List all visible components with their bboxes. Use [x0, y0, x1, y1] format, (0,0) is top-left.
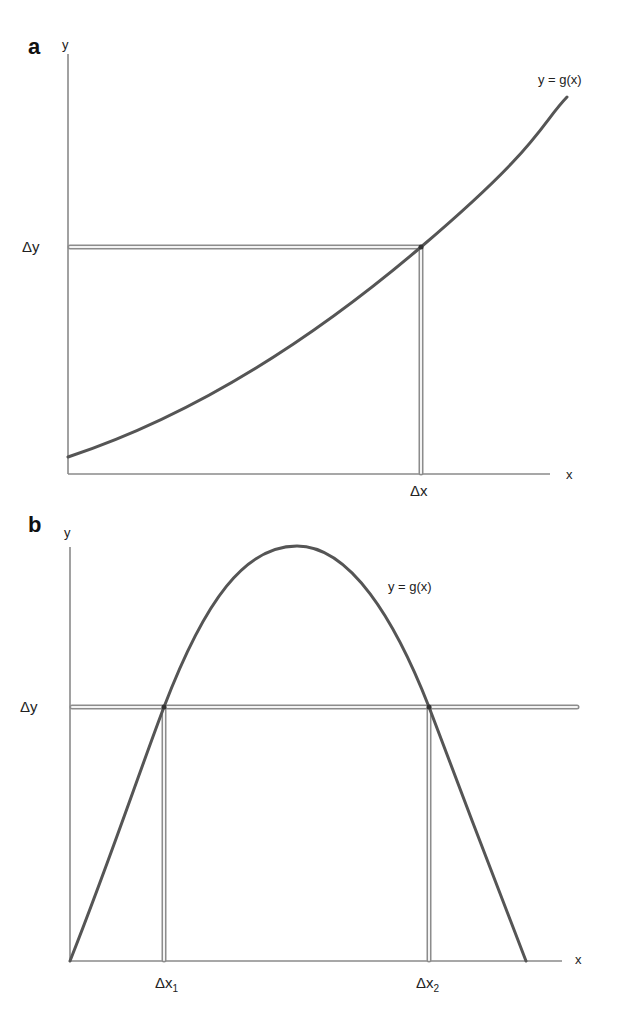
panel-b: b y x y = g(x) Δy Δx1 Δx2: [20, 512, 582, 994]
panel-b-y-axis-label: y: [64, 525, 71, 540]
panel-b-label: b: [28, 512, 41, 537]
diagram-canvas: a y x y = g(x) Δy Δx b y x: [0, 0, 620, 1031]
panel-a: a y x y = g(x) Δy Δx: [22, 34, 582, 499]
panel-b-delta-y-label: Δy: [20, 698, 38, 715]
panel-b-delta-x2-label: Δx2: [416, 974, 440, 994]
panel-a-curve-label: y = g(x): [538, 72, 582, 87]
panel-a-curve: [68, 97, 567, 457]
panel-b-curve-label: y = g(x): [388, 579, 432, 594]
panel-b-curve: [70, 546, 526, 961]
panel-a-delta-y-label: Δy: [22, 238, 40, 255]
panel-a-y-axis-label: y: [62, 37, 69, 52]
panel-b-right-intersection-point: [427, 705, 432, 710]
panel-b-left-intersection-point: [162, 705, 167, 710]
panel-a-label: a: [28, 34, 41, 59]
panel-a-delta-x-label: Δx: [410, 482, 428, 499]
panel-b-delta-x1-label: Δx1: [155, 974, 179, 994]
panel-a-x-axis-label: x: [566, 467, 573, 482]
panel-a-intersection-point: [419, 245, 424, 250]
panel-b-x-axis-label: x: [575, 952, 582, 967]
